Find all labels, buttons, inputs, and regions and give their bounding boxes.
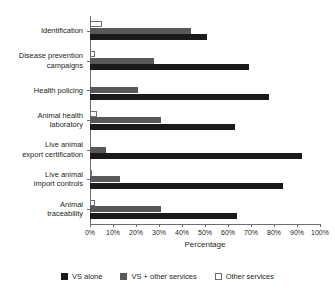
y-axis-tick bbox=[87, 90, 90, 91]
bar-vs-other bbox=[90, 117, 161, 123]
bar-row bbox=[90, 28, 320, 34]
x-axis-tick bbox=[320, 224, 321, 227]
category-label: Live animal import controls bbox=[0, 170, 83, 189]
bar-row bbox=[90, 87, 320, 93]
bar-vs-alone bbox=[90, 124, 235, 130]
legend-item: VS alone bbox=[61, 272, 102, 281]
x-axis-tick bbox=[297, 224, 298, 227]
bar-row bbox=[90, 183, 320, 189]
bar-group bbox=[90, 81, 320, 100]
y-axis-tick bbox=[87, 209, 90, 210]
bar-vs-other bbox=[90, 176, 120, 182]
chart-legend: VS aloneVS + other servicesOther service… bbox=[0, 272, 335, 281]
bar-row bbox=[90, 117, 320, 123]
x-axis-tick-label: 60% bbox=[221, 228, 235, 237]
x-axis-tick-label: 40% bbox=[175, 228, 189, 237]
bar-row bbox=[90, 176, 320, 182]
x-axis-title: Percentage bbox=[90, 240, 320, 249]
x-axis-tick bbox=[113, 224, 114, 227]
x-axis-tick bbox=[205, 224, 206, 227]
x-axis-tick-label: 50% bbox=[198, 228, 212, 237]
bar-vs-alone bbox=[90, 34, 207, 40]
x-axis-tick-label: 100% bbox=[311, 228, 329, 237]
bar-group bbox=[90, 140, 320, 159]
bar-group bbox=[90, 51, 320, 70]
bar-other bbox=[90, 111, 97, 117]
bar-vs-other bbox=[90, 87, 138, 93]
bar-vs-alone bbox=[90, 94, 269, 100]
bar-row bbox=[90, 58, 320, 64]
y-axis-tick bbox=[87, 150, 90, 151]
legend-swatch-icon bbox=[120, 273, 127, 280]
x-axis-tick bbox=[182, 224, 183, 227]
bar-vs-alone bbox=[90, 153, 302, 159]
bar-other bbox=[90, 21, 102, 27]
category-label: Health policing bbox=[0, 86, 83, 96]
legend-item: VS + other services bbox=[120, 272, 196, 281]
category-label: Live animal export certification bbox=[0, 140, 83, 159]
bar-vs-alone bbox=[90, 213, 237, 219]
bar-vs-other bbox=[90, 58, 154, 64]
bar-row bbox=[90, 213, 320, 219]
y-axis-tick bbox=[87, 61, 90, 62]
legend-label: Other services bbox=[226, 272, 274, 281]
category-label: Identification bbox=[0, 26, 83, 36]
category-label: Animal traceability bbox=[0, 200, 83, 219]
x-axis-tick-label: 90% bbox=[290, 228, 304, 237]
bar-other bbox=[90, 51, 95, 57]
plot-area: IdentificationDisease prevention campaig… bbox=[90, 16, 320, 224]
y-axis-tick bbox=[87, 31, 90, 32]
bar-row bbox=[90, 140, 320, 146]
bar-row bbox=[90, 170, 320, 176]
legend-item: Other services bbox=[215, 272, 274, 281]
bar-vs-alone bbox=[90, 64, 249, 70]
bar-group bbox=[90, 21, 320, 40]
bar-row bbox=[90, 111, 320, 117]
x-axis-tick-label: 20% bbox=[129, 228, 143, 237]
bar-other bbox=[90, 170, 92, 176]
bar-vs-alone bbox=[90, 183, 283, 189]
x-axis-tick-label: 70% bbox=[244, 228, 258, 237]
x-axis-tick bbox=[251, 224, 252, 227]
x-axis-tick bbox=[159, 224, 160, 227]
category-label: Disease prevention campaigns bbox=[0, 51, 83, 70]
bar-row bbox=[90, 206, 320, 212]
x-axis-tick bbox=[90, 224, 91, 227]
bar-row bbox=[90, 51, 320, 57]
x-axis-tick-label: 0% bbox=[85, 228, 95, 237]
bar-row bbox=[90, 64, 320, 70]
bar-row bbox=[90, 147, 320, 153]
legend-swatch-icon bbox=[215, 273, 222, 280]
x-axis-tick bbox=[228, 224, 229, 227]
x-axis-tick-label: 10% bbox=[106, 228, 120, 237]
legend-label: VS alone bbox=[72, 272, 102, 281]
bar-group bbox=[90, 170, 320, 189]
bar-vs-other bbox=[90, 206, 161, 212]
bar-row bbox=[90, 124, 320, 130]
x-axis-tick bbox=[136, 224, 137, 227]
x-axis-tick bbox=[274, 224, 275, 227]
x-axis-tick-label: 30% bbox=[152, 228, 166, 237]
x-axis-tick-label: 80% bbox=[267, 228, 281, 237]
bar-row bbox=[90, 94, 320, 100]
bar-vs-other bbox=[90, 28, 191, 34]
bar-row bbox=[90, 200, 320, 206]
bar-chart: IdentificationDisease prevention campaig… bbox=[0, 0, 335, 295]
bar-row bbox=[90, 21, 320, 27]
bar-vs-other bbox=[90, 147, 106, 153]
bar-row bbox=[90, 153, 320, 159]
legend-label: VS + other services bbox=[131, 272, 196, 281]
bar-row bbox=[90, 34, 320, 40]
legend-swatch-icon bbox=[61, 273, 68, 280]
y-axis-tick bbox=[87, 120, 90, 121]
bar-other bbox=[90, 200, 95, 206]
bar-group bbox=[90, 200, 320, 219]
bar-row bbox=[90, 81, 320, 87]
bar-group bbox=[90, 111, 320, 130]
y-axis-tick bbox=[87, 179, 90, 180]
category-label: Animal health laboratory bbox=[0, 111, 83, 130]
